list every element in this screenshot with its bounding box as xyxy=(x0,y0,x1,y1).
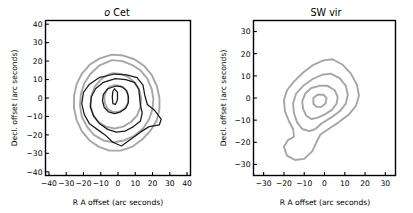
xtick-label: −20 xyxy=(276,179,292,188)
panel-title-o-cet-roman: Cet xyxy=(113,7,130,18)
xtick-label: −40 xyxy=(41,179,57,188)
ytick-label: −20 xyxy=(26,131,42,140)
xtick-label: −20 xyxy=(75,179,91,188)
ytick-label: −10 xyxy=(26,112,42,121)
xtick-label: −10 xyxy=(93,179,109,188)
xtick-label: 30 xyxy=(381,179,391,188)
xtick-label: 10 xyxy=(130,179,140,188)
ytick-label: 30 xyxy=(241,27,251,36)
yaxis-title-o-cet: Decl. offset (arc seconds) xyxy=(10,50,19,147)
ytick-label: −30 xyxy=(26,149,42,158)
chart-panel-o-cet: o Cet −40−30−20−10010203040−40−30−20−100… xyxy=(0,0,213,213)
ytick-label: 20 xyxy=(33,57,43,66)
ytick-label: 20 xyxy=(241,50,251,59)
ytick-label: −20 xyxy=(234,138,250,147)
sw-vir-plot-svg: SW vir −30−20−100102030−30−20−100102030 … xyxy=(213,0,413,213)
contour-level-2 xyxy=(302,86,338,119)
xtick-label: −30 xyxy=(58,179,74,188)
ytick-label: −10 xyxy=(234,116,250,125)
chart-panel-sw-vir: SW vir −30−20−100102030−30−20−100102030 … xyxy=(213,0,413,213)
contour-group-gray-sw-vir xyxy=(284,59,359,160)
contour-level-2 xyxy=(90,73,141,128)
contour-level-3 xyxy=(313,95,326,107)
contour-level-3 xyxy=(112,89,117,105)
ytick-label: 10 xyxy=(241,72,251,81)
xtick-label: 10 xyxy=(340,179,350,188)
xtick-label: 20 xyxy=(360,179,370,188)
xaxis-title-o-cet: R A offset (arc seconds) xyxy=(73,198,163,207)
xtick-label: 20 xyxy=(148,179,158,188)
xtick-label: −30 xyxy=(256,179,272,188)
ytick-label: 10 xyxy=(33,75,43,84)
panel-title-sw-vir: SW vir xyxy=(311,7,342,18)
xaxis-title-sw-vir: R A offset (arc seconds) xyxy=(280,198,370,207)
ytick-label: 0 xyxy=(38,94,43,103)
yaxis-title-sw-vir: Decl. offset (arc seconds) xyxy=(219,50,228,147)
panel-title-o-cet: o Cet xyxy=(104,7,130,18)
ytick-label: 30 xyxy=(33,38,43,47)
xtick-label: 0 xyxy=(116,179,121,188)
plot-frame-sw-vir xyxy=(254,21,396,176)
xtick-label: −10 xyxy=(296,179,312,188)
ytick-label: 0 xyxy=(246,94,251,103)
ytick-label: −30 xyxy=(234,160,250,169)
xtick-label: 30 xyxy=(165,179,175,188)
figure-container: o Cet −40−30−20−10010203040−40−30−20−100… xyxy=(0,0,413,213)
xtick-label: 0 xyxy=(322,179,327,188)
axis-ticks-o-cet: −40−30−20−10010203040−40−30−20−100102030… xyxy=(26,20,192,188)
o-cet-plot-svg: o Cet −40−30−20−10010203040−40−30−20−100… xyxy=(0,0,213,213)
ytick-label: −40 xyxy=(26,168,42,177)
axis-ticks-sw-vir: −30−20−100102030−30−20−100102030 xyxy=(234,27,390,187)
xtick-label: 40 xyxy=(182,179,192,188)
ytick-label: 40 xyxy=(33,20,43,29)
